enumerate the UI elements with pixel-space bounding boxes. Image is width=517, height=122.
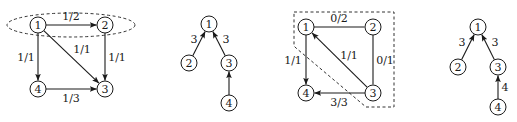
node-label: 2	[455, 61, 462, 74]
node-3: 3	[365, 85, 381, 101]
edge-label: 3	[191, 33, 198, 46]
edge-label: 4	[502, 81, 509, 94]
edge-label: 0/2	[330, 12, 348, 25]
node-layer: 1234123412341234	[30, 16, 506, 115]
node-4: 4	[298, 85, 314, 101]
edge-label: 1/1	[340, 49, 358, 62]
node-label: 3	[370, 87, 377, 100]
node-3: 3	[490, 59, 506, 75]
edge-label: 3	[492, 36, 499, 49]
node-2: 2	[450, 59, 466, 75]
node-1: 1	[201, 16, 217, 32]
node-label: 1	[475, 21, 482, 34]
edge-label: 3/3	[330, 96, 348, 109]
edge-label: 1/2	[62, 10, 80, 23]
node-1: 1	[298, 19, 314, 35]
node-label: 1	[35, 19, 42, 32]
node-label: 2	[102, 19, 109, 32]
node-4: 4	[221, 95, 237, 111]
edge-label: 3	[223, 33, 230, 46]
edge-label: 3	[459, 36, 466, 49]
node-1: 1	[30, 17, 46, 33]
node-label: 3	[102, 83, 109, 96]
node-4: 4	[30, 81, 46, 97]
node-2: 2	[181, 55, 197, 71]
node-1: 1	[470, 19, 486, 35]
label-layer: 1/21/11/11/11/3330/21/11/10/13/3334	[17, 10, 508, 109]
node-label: 4	[226, 97, 233, 110]
node-2: 2	[365, 19, 381, 35]
figure-canvas: 1234123412341234 1/21/11/11/11/3330/21/1…	[0, 0, 517, 122]
node-label: 1	[206, 18, 213, 31]
graph-diagrams: 1234123412341234 1/21/11/11/11/3330/21/1…	[0, 0, 517, 122]
node-4: 4	[490, 99, 506, 115]
node-label: 2	[370, 21, 377, 34]
node-label: 4	[495, 101, 502, 114]
node-2: 2	[97, 17, 113, 33]
edge-label: 1/3	[62, 92, 80, 105]
edge-1-3-arrow	[44, 31, 99, 84]
edge-label: 0/1	[376, 54, 394, 67]
node-label: 2	[186, 57, 193, 70]
node-3: 3	[97, 81, 113, 97]
node-label: 3	[226, 57, 233, 70]
edge-label: 1/1	[17, 51, 35, 64]
edge-label: 1/1	[284, 54, 302, 67]
node-label: 3	[495, 61, 502, 74]
node-label: 4	[35, 83, 42, 96]
node-label: 1	[303, 21, 310, 34]
node-label: 4	[303, 87, 310, 100]
edge-label: 1/1	[108, 51, 126, 64]
edge-label: 1/1	[73, 43, 91, 56]
node-3: 3	[221, 55, 237, 71]
